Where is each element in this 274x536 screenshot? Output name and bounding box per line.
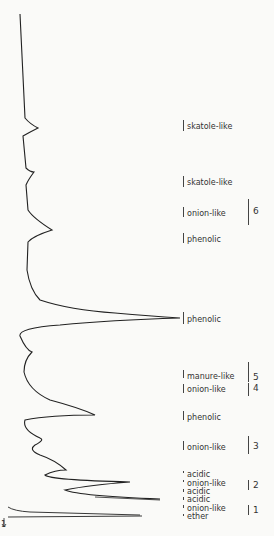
peak-tick [183,233,184,243]
peak-tick [183,120,184,131]
peak-label: onion-like [187,385,226,394]
peak-tick [183,505,184,508]
peak-tick [183,489,184,492]
group-label: 4 [253,383,259,393]
peak-tick [183,480,184,482]
group-label: 3 [253,441,259,451]
peak-label: manure-like [187,372,234,381]
group-bracket [248,383,249,396]
chromatogram-trace [0,0,274,536]
group-bracket [248,505,249,515]
peak-tick [183,384,184,393]
peak-tick [183,497,184,500]
group-label: 1 [253,505,259,515]
peak-tick [183,514,184,516]
peak-tick [183,441,184,450]
peak-tick [183,411,184,420]
group-label: 2 [253,480,259,490]
peak-label: phenolic [187,413,221,422]
group-label: 6 [253,206,259,216]
peak-label: skatole-like [187,122,232,131]
start-marker: 1 [1,520,6,529]
group-bracket [248,436,249,454]
peak-label: phenolic [187,235,221,244]
peak-tick [183,207,184,217]
peak-tick [183,471,184,473]
group-bracket [248,480,249,490]
peak-label: onion-like [187,209,226,218]
group-bracket [248,199,249,225]
peak-label: phenolic [187,315,221,324]
peak-label: acidic [187,470,210,479]
peak-label: acidic [187,495,210,504]
peak-label: skatole-like [187,178,232,187]
group-label: 5 [253,372,259,382]
peak-tick [183,312,184,324]
peak-label: onion-like [187,443,226,452]
group-bracket [248,362,249,382]
peak-label: ether [187,512,208,521]
peak-tick [183,370,184,378]
peak-tick [183,176,184,187]
